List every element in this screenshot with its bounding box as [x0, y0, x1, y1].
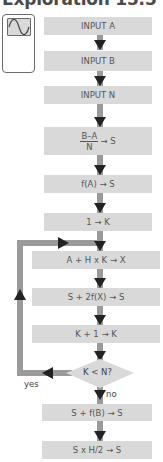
step-text: 1 → K	[86, 217, 110, 227]
arrowhead-left	[42, 367, 53, 379]
step-text: S + f(B) → S	[71, 408, 122, 418]
fraction-denominator: N	[86, 142, 92, 152]
loop-line-left	[17, 240, 23, 376]
step-f-a: f(A) → S	[44, 175, 152, 193]
yes-label: yes	[24, 379, 39, 389]
step-text: f(A) → S	[81, 179, 114, 189]
arrowhead-right	[58, 237, 69, 249]
step-input-a: INPUT A	[44, 17, 152, 35]
step-increment-k: K + 1 → K	[32, 325, 160, 343]
step-add-f-b: S + f(B) → S	[42, 404, 152, 421]
decision-text: K < N?	[83, 367, 112, 377]
step-text: INPUT B	[81, 56, 115, 66]
arrowhead-down	[94, 76, 106, 86]
arrowhead-down	[94, 278, 106, 288]
arrowhead-down	[94, 390, 106, 400]
arrowhead-up	[14, 289, 26, 300]
arrowhead-down	[94, 40, 106, 50]
step-step-size: B–A N → S	[44, 127, 152, 155]
step-text: A + H x K → X	[66, 255, 125, 265]
arrowhead-down	[94, 315, 106, 325]
step-text: INPUT A	[81, 21, 115, 31]
step-input-n: INPUT N	[44, 86, 152, 104]
step-text: S x H/2 → S	[73, 445, 121, 455]
step-compute-x: A + H x K → X	[32, 251, 160, 269]
fraction: B–A N	[80, 131, 98, 152]
step-accumulate: S + 2f(X) → S	[32, 288, 160, 306]
step-text: → S	[100, 136, 115, 146]
step-text: INPUT N	[81, 90, 115, 100]
step-text: S + 2f(X) → S	[68, 292, 125, 302]
step-final-s: S x H/2 → S	[42, 441, 152, 459]
step-input-b: INPUT B	[44, 51, 152, 71]
arrowhead-down	[94, 203, 106, 213]
step-init-k: 1 → K	[44, 213, 152, 231]
arrowhead-down	[94, 431, 106, 441]
no-label: no	[106, 389, 117, 399]
step-text: K + 1 → K	[75, 329, 117, 339]
arrowhead-down	[94, 117, 106, 127]
fraction-numerator: B–A	[80, 131, 98, 142]
arrowhead-down	[94, 165, 106, 175]
